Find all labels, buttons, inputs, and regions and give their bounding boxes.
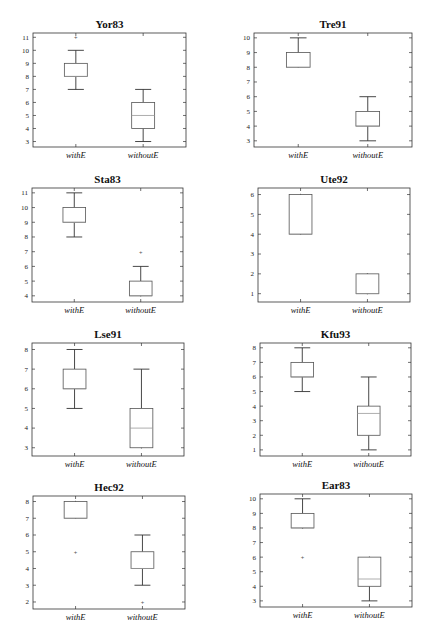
x-tick-label: withoutE <box>352 305 384 315</box>
plot-frame <box>254 33 412 147</box>
x-tick-label: withE <box>64 305 85 315</box>
y-tick-label: 8 <box>247 64 251 72</box>
y-tick-label: 4 <box>251 231 255 239</box>
y-tick-label: 4 <box>26 125 30 133</box>
y-tick-label: 3 <box>247 137 251 145</box>
iqr-box <box>63 208 86 223</box>
chart-title: Lse91 <box>94 328 122 340</box>
iqr-box <box>129 281 152 296</box>
y-tick-label: 3 <box>25 444 29 452</box>
outlier-point: + <box>139 249 143 255</box>
y-tick-label: 8 <box>253 524 257 532</box>
y-tick-label: 4 <box>247 123 251 131</box>
box-withoute: + <box>131 535 154 605</box>
y-tick-label: 10 <box>21 204 29 212</box>
chart-sta83: Sta834567891011withEwithoutE+ <box>21 173 183 315</box>
outlier-point: + <box>301 554 305 560</box>
y-tick-label: 7 <box>25 248 29 256</box>
box-withoute <box>356 97 380 141</box>
chart-ear83: Ear83345678910withEwithoutE+ <box>249 479 412 620</box>
iqr-box <box>63 369 86 389</box>
plot-frame <box>260 343 411 456</box>
y-tick-label: 5 <box>25 278 29 286</box>
chart-kfu93: Kfu9312345678withEwithoutE <box>253 328 412 469</box>
y-tick-label: 8 <box>25 233 29 241</box>
box-withe <box>63 349 86 408</box>
iqr-box <box>357 406 380 435</box>
y-tick-label: 3 <box>251 250 255 258</box>
y-tick-label: 5 <box>26 112 30 120</box>
y-tick-label: 8 <box>253 344 257 352</box>
y-tick-label: 7 <box>25 366 29 374</box>
box-withoute <box>130 369 153 448</box>
x-tick-label: withE <box>66 612 87 622</box>
y-tick-label: 6 <box>251 191 255 199</box>
x-tick-label: withE <box>288 150 309 160</box>
chart-title: Hec92 <box>94 481 124 493</box>
box-withoute <box>132 89 155 141</box>
y-tick-label: 8 <box>25 346 29 354</box>
y-tick-label: 6 <box>253 373 257 381</box>
chart-title: Tre91 <box>319 18 346 30</box>
figure: Yor8334567891011withEwithoutE+Tre9134567… <box>0 0 433 634</box>
y-tick-label: 9 <box>26 60 30 68</box>
box-withe: + <box>64 34 87 89</box>
y-tick-label: 5 <box>25 405 29 413</box>
box-withe: + <box>64 501 87 555</box>
chart-ute92: Ute92123456withEwithoutE <box>251 173 411 315</box>
y-tick-label: 4 <box>25 292 29 300</box>
y-tick-label: 7 <box>26 86 30 94</box>
y-tick-label: 11 <box>21 189 28 197</box>
iqr-box <box>358 557 381 586</box>
x-tick-label: withoutE <box>126 459 158 469</box>
y-tick-label: 7 <box>26 515 30 523</box>
x-tick-label: withoutE <box>354 610 386 620</box>
box-withoute <box>357 377 380 450</box>
outlier-point: + <box>141 599 145 605</box>
y-tick-label: 3 <box>253 597 257 605</box>
y-tick-label: 5 <box>253 568 257 576</box>
y-tick-label: 6 <box>25 385 29 393</box>
y-tick-label: 4 <box>253 583 257 591</box>
y-tick-label: 5 <box>247 108 251 116</box>
chart-tre91: Tre91345678910withEwithoutE <box>243 18 412 160</box>
y-tick-label: 5 <box>26 548 30 556</box>
x-tick-label: withoutE <box>127 612 159 622</box>
x-tick-label: withoutE <box>352 150 384 160</box>
chart-title: Yor83 <box>95 18 124 30</box>
box-withoute <box>358 556 381 600</box>
plot-frame <box>260 494 412 607</box>
plot-frame <box>33 33 186 147</box>
y-tick-label: 5 <box>251 211 255 219</box>
y-tick-label: 10 <box>22 47 30 55</box>
outlier-point: + <box>74 34 78 40</box>
iqr-box <box>131 552 154 569</box>
y-tick-label: 1 <box>253 446 257 454</box>
y-tick-label: 3 <box>26 138 30 146</box>
box-withe <box>63 193 86 237</box>
y-tick-label: 6 <box>247 93 251 101</box>
y-tick-label: 7 <box>253 359 257 367</box>
y-tick-label: 1 <box>251 290 255 298</box>
y-tick-label: 6 <box>253 554 257 562</box>
box-withoute: + <box>129 249 152 297</box>
iqr-box <box>286 53 310 68</box>
box-withe: + <box>291 499 314 560</box>
chart-title: Ear83 <box>322 479 351 491</box>
box-withe <box>291 348 314 392</box>
y-tick-label: 10 <box>249 495 257 503</box>
chart-yor83: Yor8334567891011withEwithoutE+ <box>22 18 186 160</box>
iqr-box <box>64 63 87 76</box>
y-tick-label: 3 <box>26 582 30 590</box>
chart-hec92: Hec922345678withEwithoutE++ <box>26 481 186 622</box>
y-tick-label: 6 <box>26 531 30 539</box>
y-tick-label: 6 <box>26 99 30 107</box>
y-tick-label: 4 <box>253 403 257 411</box>
y-tick-label: 5 <box>253 388 257 396</box>
y-tick-label: 9 <box>247 49 251 57</box>
iqr-box <box>356 111 380 126</box>
chart-title: Sta83 <box>94 173 121 185</box>
y-tick-label: 2 <box>251 270 255 278</box>
y-tick-label: 4 <box>26 565 30 573</box>
y-tick-label: 10 <box>243 34 251 42</box>
